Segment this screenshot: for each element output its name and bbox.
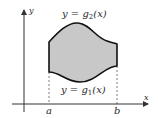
x-axis-label: x bbox=[144, 94, 149, 102]
y-axis-label: y bbox=[29, 7, 34, 15]
lower-curve-label: y = g1(x) bbox=[61, 85, 106, 97]
shaded-region bbox=[49, 23, 117, 82]
bound-a-label: a bbox=[46, 106, 52, 116]
bound-b-label: b bbox=[114, 106, 120, 116]
upper-curve-label: y = g2(x) bbox=[62, 9, 107, 21]
